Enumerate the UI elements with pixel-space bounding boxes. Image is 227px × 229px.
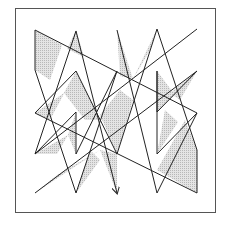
shaded-region [100, 150, 117, 193]
shaded-region [35, 30, 62, 80]
shaded-regions [35, 29, 197, 193]
line-segment [117, 29, 157, 154]
shaded-region [133, 29, 157, 79]
shaded-region [117, 30, 133, 79]
polyline-diagram [0, 0, 227, 229]
diagram-canvas [0, 0, 227, 229]
